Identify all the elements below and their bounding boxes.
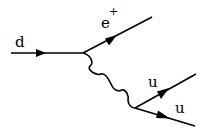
label-d: d bbox=[15, 33, 25, 51]
arrow-icon bbox=[156, 111, 170, 119]
quark-lower-line bbox=[135, 108, 195, 126]
arrow-icon bbox=[105, 35, 117, 46]
feynman-diagram: d e + u u bbox=[0, 0, 207, 135]
positron-line bbox=[83, 17, 152, 53]
arrow-icon bbox=[157, 88, 169, 99]
label-u-lower: u bbox=[175, 99, 185, 117]
label-u-upper: u bbox=[148, 73, 158, 91]
wavy-propagator bbox=[83, 53, 135, 108]
arrow-icon bbox=[36, 49, 46, 57]
quark-upper-line bbox=[135, 74, 196, 108]
label-plus: + bbox=[109, 5, 118, 18]
